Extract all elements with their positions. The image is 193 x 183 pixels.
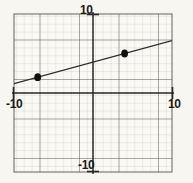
data-point-1 — [34, 73, 41, 81]
data-point-2 — [121, 50, 128, 58]
y-axis-max-label: 10 — [80, 4, 93, 16]
y-axis-min-label: -10 — [78, 159, 94, 171]
x-axis-max-label: 10 — [168, 98, 181, 110]
graph-canvas — [0, 0, 193, 183]
x-axis-min-label: -10 — [6, 98, 22, 110]
coordinate-plane-figure: 10 -10 10 -10 — [0, 0, 193, 183]
